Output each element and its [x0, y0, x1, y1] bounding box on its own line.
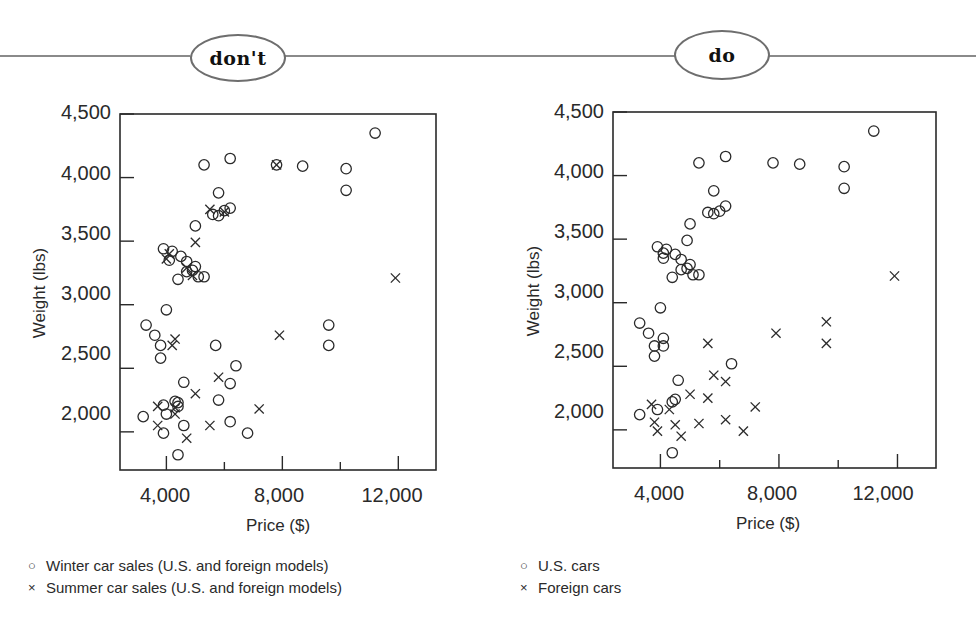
- data-point-circle: [667, 397, 677, 407]
- do-xtick-4000: 4,000: [614, 482, 704, 505]
- data-point-circle: [634, 409, 644, 419]
- data-point-circle: [688, 270, 698, 280]
- x-marker-icon: ×: [28, 577, 42, 599]
- do-ytick-3000: 3,000: [534, 280, 604, 303]
- x-marker-icon: ×: [520, 577, 534, 599]
- data-point-x: [685, 390, 694, 399]
- legend-label: U.S. cars: [538, 555, 600, 577]
- data-point-circle: [643, 328, 653, 338]
- data-point-x: [822, 317, 831, 326]
- circle-marker-icon: ○: [520, 555, 534, 577]
- do-xtick-8000: 8,000: [727, 482, 817, 505]
- data-point-circle: [673, 375, 683, 385]
- legend-item-summer: × Summer car sales (U.S. and foreign mod…: [28, 577, 342, 599]
- data-point-circle: [839, 183, 849, 193]
- data-point-x: [751, 402, 760, 411]
- legend-label: Foreign cars: [538, 577, 621, 599]
- data-point-circle: [694, 270, 704, 280]
- legend-item-foreign: × Foreign cars: [520, 577, 621, 599]
- data-point-x: [653, 427, 662, 436]
- do-ytick-4000: 4,000: [534, 160, 604, 183]
- do-ytick-2500: 2,500: [534, 340, 604, 363]
- do-x-axis-label: Price ($): [718, 514, 818, 534]
- data-point-x: [650, 418, 659, 427]
- data-point-x: [739, 427, 748, 436]
- do-ytick-2000: 2,000: [534, 400, 604, 423]
- data-point-circle: [869, 126, 879, 136]
- legend-item-us: ○ U.S. cars: [520, 555, 621, 577]
- do-ytick-3500: 3,500: [534, 220, 604, 243]
- do-xtick-12000: 12,000: [838, 482, 928, 505]
- data-point-circle: [655, 303, 665, 313]
- plot-frame: [613, 112, 936, 468]
- data-point-circle: [794, 159, 804, 169]
- data-point-circle: [726, 359, 736, 369]
- data-point-x: [709, 371, 718, 380]
- data-point-circle: [649, 351, 659, 361]
- data-point-x: [677, 432, 686, 441]
- do-scatter-chart: Weight (lbs) 4,500 4,000 3,500 3,000 2,5…: [0, 0, 976, 560]
- data-point-x: [822, 339, 831, 348]
- data-point-x: [694, 419, 703, 428]
- data-point-circle: [839, 161, 849, 171]
- data-point-circle: [768, 158, 778, 168]
- data-point-x: [703, 339, 712, 348]
- data-point-circle: [709, 186, 719, 196]
- data-point-circle: [685, 219, 695, 229]
- do-legend: ○ U.S. cars × Foreign cars: [520, 555, 621, 599]
- data-point-circle: [667, 272, 677, 282]
- data-point-x: [721, 415, 730, 424]
- data-point-circle: [682, 235, 692, 245]
- data-point-circle: [667, 448, 677, 458]
- data-point-x: [721, 377, 730, 386]
- dont-legend: ○ Winter car sales (U.S. and foreign mod…: [28, 555, 342, 599]
- data-point-circle: [709, 209, 719, 219]
- data-point-circle: [634, 318, 644, 328]
- data-point-circle: [670, 394, 680, 404]
- data-point-x: [890, 271, 899, 280]
- data-point-x: [671, 420, 680, 429]
- data-point-circle: [720, 151, 730, 161]
- data-point-x: [703, 393, 712, 402]
- do-ytick-4500: 4,500: [534, 100, 604, 123]
- do-plot-area: [0, 0, 976, 560]
- data-point-x: [771, 329, 780, 338]
- data-point-circle: [694, 158, 704, 168]
- legend-label: Summer car sales (U.S. and foreign model…: [46, 577, 342, 599]
